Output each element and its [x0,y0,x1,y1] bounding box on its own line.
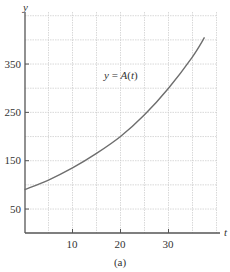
figure-caption: (a) [114,256,127,269]
y-tick-label-350: 350 [5,58,22,70]
y-tick-label-50: 50 [10,203,22,215]
x-tick-label-30: 30 [163,238,175,250]
y-tick-label-250: 250 [5,106,22,118]
curve-label: y = A(t) [103,69,138,82]
x-axis-label: t [224,226,228,238]
curve-a-of-t [25,37,205,189]
y-tick-label-150: 150 [5,154,22,166]
y-axis-label: y [22,1,28,13]
gridlines [25,12,217,233]
x-tick-label-10: 10 [67,238,79,250]
x-tick-label-20: 20 [115,238,127,250]
chart: y t 350 250 150 50 10 20 30 y = A(t) (a) [0,0,230,272]
